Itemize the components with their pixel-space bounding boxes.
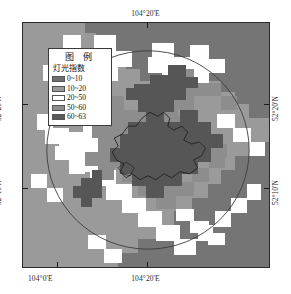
tick-top-104-20-e bbox=[147, 23, 148, 28]
legend-label-0-10: 0~10 bbox=[67, 75, 82, 83]
legend-swatch-20-50 bbox=[52, 95, 65, 101]
tick-bottom-104-0-e bbox=[57, 262, 58, 267]
legend-swatch-0-10 bbox=[52, 76, 65, 82]
legend-item-10-20: 10~20 bbox=[52, 84, 108, 93]
axis-label-right-52-20-n: 52°20'N bbox=[271, 96, 280, 121]
legend-item-20-50: 20~50 bbox=[52, 94, 108, 103]
tick-right-52-20-n bbox=[264, 104, 269, 105]
tick-left-52-20-n bbox=[23, 104, 28, 105]
tick-left-52-10-n bbox=[23, 188, 28, 189]
legend-swatch-10-20 bbox=[52, 86, 65, 92]
map-figure: 104°20'E 104°0'E 104°20'E 52°20'N 52°10'… bbox=[0, 0, 291, 294]
map-canvas: 图 例 灯光指数 0~10 10~20 20~50 50~60 60~63 bbox=[22, 22, 270, 268]
legend-swatch-60-63 bbox=[52, 114, 65, 120]
legend-swatch-50-60 bbox=[52, 105, 65, 111]
map-legend: 图 例 灯光指数 0~10 10~20 20~50 50~60 60~63 bbox=[48, 48, 112, 126]
tick-right-52-10-n bbox=[264, 188, 269, 189]
legend-item-60-63: 60~63 bbox=[52, 113, 108, 122]
axis-label-right-52-10-n: 52°10'N bbox=[271, 180, 280, 205]
axis-label-bottom-right: 104°20'E bbox=[0, 274, 291, 283]
legend-item-0-10: 0~10 bbox=[52, 75, 108, 84]
legend-subtitle: 灯光指数 bbox=[52, 63, 108, 74]
axis-label-top: 104°20'E bbox=[0, 9, 291, 18]
axis-label-left-52-20-n: 52°20'N bbox=[0, 96, 3, 121]
legend-title: 图 例 bbox=[52, 51, 108, 63]
legend-item-50-60: 50~60 bbox=[52, 103, 108, 112]
tick-bottom-104-20-e bbox=[147, 262, 148, 267]
legend-label-50-60: 50~60 bbox=[67, 104, 86, 112]
legend-label-60-63: 60~63 bbox=[67, 113, 86, 121]
legend-label-20-50: 20~50 bbox=[67, 94, 86, 102]
legend-label-10-20: 10~20 bbox=[67, 85, 86, 93]
city-boundary bbox=[112, 112, 205, 179]
axis-label-left-52-10-n: 52°10'N bbox=[0, 180, 3, 205]
